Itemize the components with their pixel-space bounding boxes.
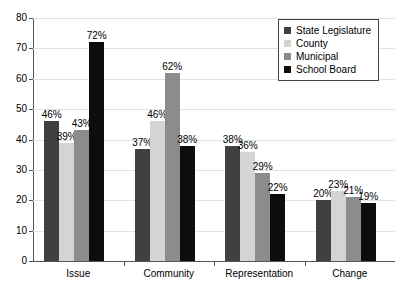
bar-value-label: 72% [87,31,107,41]
y-axis-tick-label: 50 [16,104,27,114]
legend-swatch-icon [284,40,291,47]
bar-value-label: 22% [268,183,288,193]
y-axis-tick-label: 10 [16,226,27,236]
y-axis-tick-mark [29,170,33,171]
bar-group: 46%39%43%72% [44,18,104,261]
legend-swatch-icon [284,27,291,34]
bar-value-label: 29% [253,162,273,172]
y-axis-tick-mark [29,200,33,201]
y-axis-tick-label: 30 [16,165,27,175]
bar-value-label: 19% [358,192,378,202]
bar-group: 38%36%29%22% [225,18,285,261]
y-axis-tick-mark [29,231,33,232]
bar[interactable]: 37% [135,149,150,261]
bar[interactable]: 38% [180,146,195,261]
y-axis-tick-mark [29,140,33,141]
bar[interactable]: 20% [316,200,331,261]
y-axis-tick-label: 0 [21,256,27,266]
bar[interactable]: 62% [165,73,180,261]
bar[interactable]: 46% [150,121,165,261]
bar[interactable]: 38% [225,146,240,261]
x-axis-category-label: Issue [33,269,124,279]
y-axis-tick-mark [29,109,33,110]
y-axis-tick-mark [29,18,33,19]
legend-item[interactable]: Municipal [284,50,371,63]
y-axis-tick-label: 20 [16,195,27,205]
legend-item-label: Municipal [296,52,338,62]
bar[interactable]: 46% [44,121,59,261]
y-axis-tick-mark [29,79,33,80]
legend-item[interactable]: County [284,37,371,50]
legend-item-label: State Legislature [296,26,371,36]
bar-value-label: 38% [177,135,197,145]
bar-chart: 0102030405060708046%39%43%72%37%46%62%38… [0,0,403,295]
y-axis-tick-mark [29,261,33,262]
x-axis-category-label: Community [124,269,215,279]
bar[interactable]: 22% [270,194,285,261]
bar-value-label: 36% [238,141,258,151]
x-axis-tick-mark [124,261,125,266]
legend-item[interactable]: School Board [284,63,371,76]
bar[interactable]: 72% [89,42,104,261]
y-axis-tick-label: 60 [16,74,27,84]
x-axis-category-label: Representation [214,269,305,279]
y-axis-tick-label: 40 [16,135,27,145]
bar-value-label: 62% [162,62,182,72]
bar-group: 37%46%62%38% [135,18,195,261]
x-axis-category-label: Change [305,269,396,279]
legend-swatch-icon [284,66,291,73]
legend-swatch-icon [284,53,291,60]
x-axis-tick-mark [305,261,306,266]
bar[interactable]: 39% [59,143,74,261]
y-axis-tick-label: 80 [16,13,27,23]
bar[interactable]: 43% [74,130,89,261]
bar[interactable]: 19% [361,203,376,261]
chart-legend: State LegislatureCountyMunicipalSchool B… [278,19,379,81]
legend-item-label: School Board [296,65,356,75]
y-axis-tick-mark [29,48,33,49]
bar-value-label: 46% [42,110,62,120]
legend-item[interactable]: State Legislature [284,24,371,37]
y-axis-tick-label: 70 [16,43,27,53]
legend-item-label: County [296,39,328,49]
bar[interactable]: 21% [346,197,361,261]
bar[interactable]: 23% [331,191,346,261]
x-axis-tick-mark [214,261,215,266]
